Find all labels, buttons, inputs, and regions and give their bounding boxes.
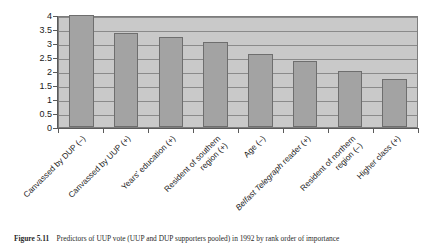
y-tick-label: 1 bbox=[4, 96, 52, 105]
bar bbox=[159, 37, 184, 127]
y-tick-label: 1.5 bbox=[4, 82, 52, 91]
x-tick-mark bbox=[193, 128, 194, 133]
figure-caption: Figure 5.11 Predictors of UUP vote (UUP … bbox=[14, 234, 426, 245]
bar-slot bbox=[283, 17, 328, 127]
y-tick-mark bbox=[53, 30, 58, 31]
bar-slot bbox=[328, 17, 373, 127]
x-tick-mark bbox=[283, 128, 284, 133]
y-tick-label: 2 bbox=[4, 68, 52, 77]
bar-slot bbox=[59, 17, 104, 127]
bar bbox=[293, 61, 318, 127]
y-tick-label: 2.5 bbox=[4, 54, 52, 63]
y-tick-label: 3.5 bbox=[4, 26, 52, 35]
x-tick-mark bbox=[148, 128, 149, 133]
y-tick-label: 0.5 bbox=[4, 110, 52, 119]
y-tick-mark bbox=[53, 72, 58, 73]
x-tick-mark bbox=[328, 128, 329, 133]
y-tick-label: 3 bbox=[4, 40, 52, 49]
bar-series bbox=[59, 17, 417, 127]
figure-container: 00.511.522.533.54 Canvassed by DUP (–)Ca… bbox=[0, 0, 436, 245]
x-axis-labels: Canvassed by DUP (–)Canvassed by UUP (+)… bbox=[0, 128, 436, 218]
bar-slot bbox=[238, 17, 283, 127]
x-tick-mark bbox=[373, 128, 374, 133]
bar bbox=[69, 15, 94, 127]
bar bbox=[114, 33, 139, 127]
bar bbox=[338, 71, 363, 127]
chart-plot-area bbox=[58, 16, 418, 128]
y-tick-mark bbox=[53, 86, 58, 87]
y-tick-mark bbox=[53, 58, 58, 59]
bar-slot bbox=[149, 17, 194, 127]
bar bbox=[382, 79, 407, 127]
caption-text: Predictors of UUP vote (UUP and DUP supp… bbox=[49, 234, 339, 243]
y-tick-mark bbox=[53, 16, 58, 17]
y-tick-label: 4 bbox=[4, 12, 52, 21]
y-tick-mark bbox=[53, 44, 58, 45]
bar bbox=[248, 54, 273, 127]
y-tick-mark bbox=[53, 100, 58, 101]
x-tick-mark bbox=[418, 128, 419, 133]
bar bbox=[203, 42, 228, 127]
bar-slot bbox=[104, 17, 149, 127]
x-tick-mark bbox=[103, 128, 104, 133]
bar-slot bbox=[372, 17, 417, 127]
x-tick-mark bbox=[238, 128, 239, 133]
y-tick-mark bbox=[53, 114, 58, 115]
caption-label: Figure 5.11 bbox=[14, 234, 49, 243]
x-tick-mark bbox=[58, 128, 59, 133]
bar-slot bbox=[193, 17, 238, 127]
